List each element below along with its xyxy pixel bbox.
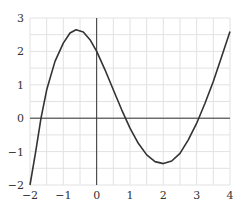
y-tick-label: 0 — [17, 112, 24, 125]
y-tick-label: −2 — [8, 179, 24, 192]
x-tick-label: 0 — [93, 189, 100, 202]
y-tick-label: 2 — [17, 45, 24, 58]
function-plot: −2−101234 −2−10123 — [0, 0, 242, 206]
x-tick-label: 1 — [127, 189, 134, 202]
x-tick-label: −1 — [55, 189, 71, 202]
y-tick-label: 3 — [17, 12, 24, 25]
x-tick-label: −2 — [22, 189, 38, 202]
x-tick-label: 3 — [193, 189, 200, 202]
x-tick-label: 2 — [160, 189, 167, 202]
y-tick-label: 1 — [17, 79, 24, 92]
x-tick-label: 4 — [227, 189, 234, 202]
grid-lines — [30, 18, 230, 185]
y-tick-label: −1 — [8, 146, 24, 159]
y-tick-labels: −2−10123 — [8, 12, 24, 192]
x-tick-labels: −2−101234 — [22, 189, 234, 202]
